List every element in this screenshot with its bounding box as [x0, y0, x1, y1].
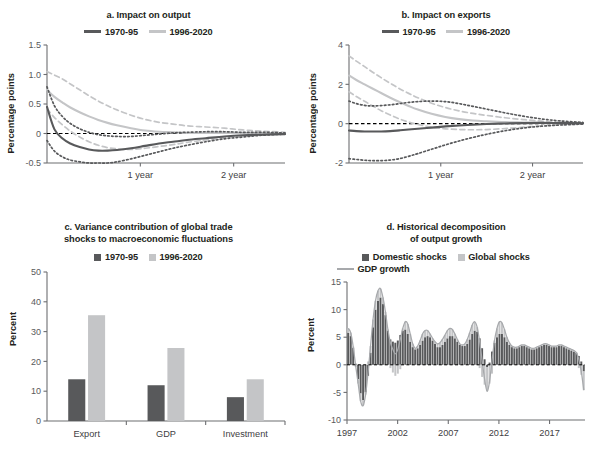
panel-d-legend-row1: Domestic shocks Global shocks	[297, 252, 595, 262]
stacked-bar-domestic	[454, 338, 456, 365]
stacked-bar-domestic	[379, 297, 381, 364]
y-tick-label: 50	[31, 267, 41, 277]
x-tick-label: 2 year	[221, 169, 247, 179]
x-tick-label: GDP	[156, 429, 176, 439]
stacked-bar-domestic	[437, 347, 439, 365]
panel-d-plot-area: Percent 151050-5-1019972002200720122017	[297, 274, 595, 446]
stacked-bar-domestic	[513, 348, 515, 365]
stacked-bar-domestic	[498, 334, 500, 365]
panel-b-legend: 1970-95 1996-2020	[297, 27, 595, 37]
x-tick-label: Investment	[223, 429, 268, 439]
panel-a-title: a. Impact on output	[0, 10, 297, 22]
x-tick-label: 1 year	[428, 169, 454, 179]
stacked-bar-domestic	[526, 347, 528, 365]
y-tick-label: 4	[338, 40, 343, 50]
x-tick-label: 2017	[539, 428, 559, 438]
panel-c-title-line2: shocks to macroeconomic fluctuations	[0, 234, 297, 246]
stacked-bar-global	[392, 365, 394, 373]
legend-item-domestic-shocks: Domestic shocks	[362, 252, 447, 262]
x-tick-label: 1 year	[128, 169, 154, 179]
y-tick-label: 0.5	[28, 99, 41, 109]
stacked-bar-domestic	[459, 345, 461, 365]
bar-gdp-0	[148, 385, 165, 421]
series-line-1996-2020-upper	[349, 55, 583, 122]
panel-d-y-axis-label: Percent	[306, 318, 316, 352]
legend-item-gdp-growth: GDP growth	[337, 264, 409, 274]
bar-investment-1	[247, 379, 264, 421]
series-line-1996-2020	[349, 75, 583, 123]
legend-label: 1970-95	[402, 27, 435, 37]
series-line-1970-95-lower	[349, 124, 583, 161]
stacked-bar-domestic	[407, 334, 409, 365]
y-tick-label: 0	[338, 118, 343, 128]
stacked-bar-domestic	[471, 334, 473, 365]
stacked-bar-domestic	[402, 331, 404, 365]
stacked-bar-domestic	[501, 334, 503, 365]
panel-a-plot-area: Percentage points 1.51.00.50-0.51 year2 …	[0, 37, 297, 187]
y-tick-label: 10	[331, 305, 341, 315]
stacked-bar-domestic	[553, 347, 555, 365]
stacked-bar-domestic	[568, 349, 570, 364]
legend-label: GDP growth	[358, 264, 410, 274]
stacked-bar-domestic	[451, 336, 453, 365]
stacked-bar-domestic	[521, 346, 523, 365]
panel-c-plot-area: Percent 01020304050ExportGDPInvestment	[0, 262, 297, 447]
y-tick-label: 1.5	[28, 40, 41, 50]
y-tick-label: -10	[328, 415, 341, 425]
y-tick-label: 40	[31, 297, 41, 307]
stacked-bar-domestic	[466, 344, 468, 365]
stacked-bar-domestic	[350, 336, 352, 365]
stacked-bar-domestic	[461, 346, 463, 365]
stacked-bar-domestic	[347, 333, 349, 365]
stacked-bar-domestic	[446, 338, 448, 365]
series-line-1996-2020-upper	[47, 71, 285, 132]
stacked-bar-domestic	[434, 344, 436, 365]
stacked-bar-domestic	[528, 348, 530, 365]
y-tick-label: -0.5	[25, 158, 41, 168]
x-tick-label: 2012	[489, 428, 509, 438]
stacked-bar-domestic	[563, 347, 565, 365]
bar-export-1	[88, 315, 105, 421]
stacked-bar-domestic	[414, 349, 416, 364]
panel-d-title-line1: d. Historical decomposition	[297, 222, 595, 234]
stacked-bar-domestic	[560, 346, 562, 365]
legend-label: 1996-2020	[169, 27, 212, 37]
legend-label: 1970-95	[105, 27, 138, 37]
legend-label: 1970-95	[105, 252, 138, 262]
panel-d-title-line2: of output growth	[297, 234, 595, 246]
stacked-bar-domestic	[392, 342, 394, 365]
stacked-bar-domestic	[427, 336, 429, 365]
y-tick-label: -5	[333, 388, 341, 398]
legend-line-icon	[337, 268, 354, 271]
stacked-bar-domestic	[412, 347, 414, 365]
legend-label: Domestic shocks	[373, 252, 447, 262]
legend-swatch-icon	[362, 254, 369, 261]
legend-item-global-shocks: Global shocks	[458, 252, 530, 262]
stacked-bar-domestic	[531, 349, 533, 364]
panel-a-legend: 1970-95 1996-2020	[0, 27, 297, 37]
stacked-bar-domestic	[546, 345, 548, 365]
stacked-bar-domestic	[476, 332, 478, 365]
legend-item-1970-95: 1970-95	[94, 252, 138, 262]
stacked-bar-domestic	[570, 350, 572, 364]
y-tick-label: 30	[31, 327, 41, 337]
panel-c-title-line1: c. Variance contribution of global trade	[0, 222, 297, 234]
stacked-bar-domestic	[484, 359, 486, 365]
panel-a-y-axis-label: Percentage points	[6, 73, 16, 154]
panel-b-title: b. Impact on exports	[297, 10, 595, 22]
panel-c-y-axis-label: Percent	[8, 312, 18, 346]
stacked-bar-domestic	[419, 345, 421, 365]
legend-item-1970-95: 1970-95	[382, 27, 436, 37]
stacked-bar-domestic	[548, 346, 550, 365]
panel-a-chart-svg: 1.51.00.50-0.51 year2 year	[0, 37, 297, 187]
bar-export-0	[68, 379, 85, 421]
stacked-bar-domestic	[536, 348, 538, 365]
y-tick-label: 1.0	[28, 69, 41, 79]
panel-d-historical-decomposition: d. Historical decomposition of output gr…	[297, 210, 595, 462]
y-tick-label: -2	[335, 158, 343, 168]
legend-line-icon	[446, 30, 463, 33]
x-tick-label: Export	[73, 429, 100, 439]
stacked-bar-domestic	[456, 342, 458, 365]
legend-line-icon	[84, 30, 101, 33]
stacked-bar-domestic	[360, 365, 362, 394]
